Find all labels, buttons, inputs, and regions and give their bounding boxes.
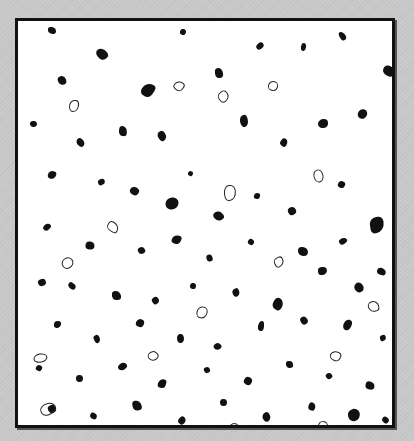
particle	[381, 416, 390, 425]
particle	[75, 137, 86, 148]
particle	[247, 238, 255, 246]
particle	[139, 81, 157, 99]
particle-outline	[59, 255, 75, 271]
particle	[338, 236, 348, 246]
particle	[48, 27, 56, 34]
particle	[206, 254, 214, 262]
particle	[342, 318, 353, 331]
particle	[298, 247, 308, 256]
particle-outline	[227, 423, 238, 428]
particle-outline	[223, 184, 237, 201]
particle	[135, 318, 146, 329]
particle-outline	[38, 400, 58, 419]
particle	[203, 366, 211, 374]
particle	[76, 375, 83, 382]
particle	[37, 278, 47, 287]
particle	[317, 266, 327, 275]
particle-outline	[272, 255, 285, 268]
particle	[118, 126, 127, 137]
particle	[176, 333, 185, 343]
particle-outline	[196, 306, 209, 320]
particle	[112, 291, 121, 300]
particle	[258, 321, 265, 331]
particle	[271, 296, 286, 311]
particle	[376, 267, 387, 276]
particle-outline	[367, 300, 381, 314]
particle-outline	[69, 100, 79, 112]
particle	[220, 399, 227, 406]
particle	[299, 315, 309, 326]
particle	[307, 402, 316, 412]
particle	[231, 287, 241, 297]
particle	[47, 170, 57, 180]
particle	[215, 68, 224, 79]
particle	[255, 41, 265, 51]
particle-outline	[172, 79, 186, 93]
particle	[97, 178, 106, 186]
particle	[356, 107, 369, 120]
particle	[287, 206, 298, 217]
particle	[171, 234, 183, 246]
particle	[35, 364, 43, 372]
particle	[85, 241, 95, 250]
particle	[189, 282, 196, 289]
particle	[300, 43, 306, 52]
particle	[151, 296, 161, 306]
particle	[187, 170, 194, 177]
particle	[54, 321, 62, 329]
particle-outline	[328, 349, 342, 363]
particle-outline	[33, 352, 48, 364]
particle	[369, 216, 385, 234]
particle	[137, 246, 147, 256]
particle-outline	[216, 89, 231, 104]
particle	[379, 334, 387, 342]
particle-outline	[105, 220, 120, 235]
particle	[89, 412, 98, 420]
particle	[253, 192, 260, 199]
particle	[57, 75, 68, 86]
particle	[261, 411, 273, 423]
particle-outline	[146, 349, 160, 363]
particle	[243, 376, 254, 387]
particle	[239, 114, 250, 128]
particle	[117, 361, 128, 372]
particle-outline	[267, 80, 279, 92]
particle	[177, 415, 188, 426]
micrograph-frame	[15, 18, 395, 428]
particle	[381, 64, 395, 78]
particle	[179, 28, 186, 35]
particle	[165, 197, 179, 210]
particle	[129, 185, 141, 197]
particle	[157, 378, 167, 389]
particle	[286, 361, 294, 369]
particle	[67, 281, 77, 290]
particle	[365, 381, 375, 390]
particle	[338, 31, 347, 42]
particle	[42, 222, 52, 232]
particle-outline	[317, 420, 330, 428]
particle	[347, 408, 362, 423]
particle	[92, 334, 101, 344]
particle	[30, 120, 38, 127]
particle	[337, 180, 346, 189]
particle	[318, 119, 328, 128]
particle	[352, 281, 365, 294]
particle	[325, 372, 333, 380]
particle-outline	[311, 168, 325, 184]
particle	[212, 209, 225, 222]
particle	[94, 46, 109, 62]
particle	[279, 137, 289, 148]
particle	[213, 342, 223, 352]
particle	[156, 130, 168, 143]
particle	[132, 400, 143, 412]
